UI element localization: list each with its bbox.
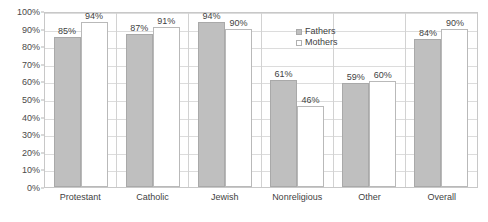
- bar-pair: 84%90%: [406, 13, 477, 187]
- bar-chart: 100%90%80%70%60%50%40%30%20%10%0% 85%94%…: [0, 0, 488, 222]
- bar-value-label: 87%: [130, 24, 148, 33]
- bar-slot: 94%: [198, 13, 225, 187]
- x-axis-category-label: Protestant: [44, 192, 116, 202]
- bar-value-label: 91%: [157, 17, 175, 26]
- bar-mothers[interactable]: 46%: [297, 106, 324, 187]
- bar-group: 87%91%: [117, 13, 189, 187]
- bar-fathers[interactable]: 59%: [342, 83, 369, 187]
- bar-slot: 60%: [369, 13, 396, 187]
- bar-fathers[interactable]: 85%: [54, 37, 81, 187]
- bar-value-label: 60%: [374, 71, 392, 80]
- x-axis-category-label: Nonreligious: [261, 192, 333, 202]
- y-axis-tick-label: 40%: [0, 113, 40, 122]
- y-axis-tick-label: 30%: [0, 131, 40, 140]
- y-axis-tick-label: 10%: [0, 166, 40, 175]
- bar-mothers[interactable]: 60%: [369, 81, 396, 187]
- bar-value-label: 94%: [85, 12, 103, 21]
- bar-slot: 85%: [54, 13, 81, 187]
- bar-slot: 61%: [270, 13, 297, 187]
- x-axis-category-label: Other: [333, 192, 405, 202]
- bar-pair: 85%94%: [45, 13, 116, 187]
- y-axis-tick-label: 70%: [0, 60, 40, 69]
- y-axis-tick-label: 90%: [0, 25, 40, 34]
- bar-value-label: 61%: [275, 70, 293, 79]
- x-axis-category-label: Overall: [406, 192, 478, 202]
- bar-mothers[interactable]: 90%: [441, 29, 468, 187]
- y-axis-tick-label: 20%: [0, 148, 40, 157]
- legend-item-fathers[interactable]: Fathers: [296, 26, 338, 37]
- bar-fathers[interactable]: 94%: [198, 22, 225, 187]
- bar-slot: 91%: [153, 13, 180, 187]
- y-axis-tick-label: 50%: [0, 96, 40, 105]
- bar-value-label: 46%: [302, 96, 320, 105]
- bar-value-label: 90%: [446, 19, 464, 28]
- bar-fathers[interactable]: 84%: [414, 39, 441, 187]
- bar-group: 84%90%: [406, 13, 477, 187]
- bar-slot: 94%: [81, 13, 108, 187]
- bar-group: 59%60%: [334, 13, 406, 187]
- bar-mothers[interactable]: 90%: [225, 29, 252, 187]
- legend-swatch-icon: [296, 29, 302, 35]
- bar-slot: 90%: [225, 13, 252, 187]
- y-axis-tick-label: 80%: [0, 43, 40, 52]
- bar-group: 85%94%: [45, 13, 117, 187]
- bar-slot: 84%: [414, 13, 441, 187]
- legend-item-label: Mothers: [305, 37, 338, 48]
- bar-pair: 94%90%: [189, 13, 260, 187]
- bar-value-label: 84%: [419, 29, 437, 38]
- bar-slot: 59%: [342, 13, 369, 187]
- chart-legend: FathersMothers: [296, 26, 338, 48]
- y-axis-tick-label: 0%: [0, 184, 40, 193]
- x-axis: ProtestantCatholicJewishNonreligiousOthe…: [44, 192, 478, 202]
- y-axis-tick-label: 100%: [0, 8, 40, 17]
- y-axis: 100%90%80%70%60%50%40%30%20%10%0%: [0, 12, 40, 188]
- bar-value-label: 90%: [229, 19, 247, 28]
- bar-value-label: 94%: [202, 12, 220, 21]
- bar-pair: 87%91%: [117, 13, 188, 187]
- legend-swatch-icon: [296, 40, 302, 46]
- x-axis-category-label: Catholic: [116, 192, 188, 202]
- bar-fathers[interactable]: 61%: [270, 80, 297, 187]
- y-axis-tick-label: 60%: [0, 78, 40, 87]
- bar-slot: 87%: [126, 13, 153, 187]
- plot-area: 85%94%87%91%94%90%61%46%59%60%84%90%: [44, 12, 478, 188]
- bar-groups: 85%94%87%91%94%90%61%46%59%60%84%90%: [45, 13, 477, 187]
- x-axis-category-label: Jewish: [189, 192, 261, 202]
- legend-item-label: Fathers: [305, 26, 336, 37]
- bar-group: 94%90%: [189, 13, 261, 187]
- bar-pair: 59%60%: [334, 13, 405, 187]
- bar-mothers[interactable]: 91%: [153, 27, 180, 187]
- bar-value-label: 59%: [347, 73, 365, 82]
- legend-item-mothers[interactable]: Mothers: [296, 37, 338, 48]
- bar-slot: 90%: [441, 13, 468, 187]
- bar-mothers[interactable]: 94%: [81, 22, 108, 187]
- bar-value-label: 85%: [58, 27, 76, 36]
- bar-fathers[interactable]: 87%: [126, 34, 153, 187]
